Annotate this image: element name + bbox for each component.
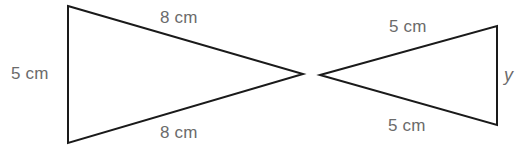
right-triangle-top-side-label: 5 cm (389, 17, 427, 37)
right-triangle-bottom-side-label: 5 cm (388, 116, 426, 136)
triangles-drawing (0, 0, 520, 150)
left-triangle-vertical-side-label: 5 cm (11, 64, 49, 84)
left-triangle-bottom-side-label: 8 cm (160, 123, 198, 143)
left-triangle-top-side-label: 8 cm (160, 8, 198, 28)
geometry-figure: 5 cm 8 cm 8 cm 5 cm 5 cm y (0, 0, 520, 150)
right-triangle (320, 26, 497, 125)
right-triangle-vertical-side-label: y (504, 65, 513, 85)
